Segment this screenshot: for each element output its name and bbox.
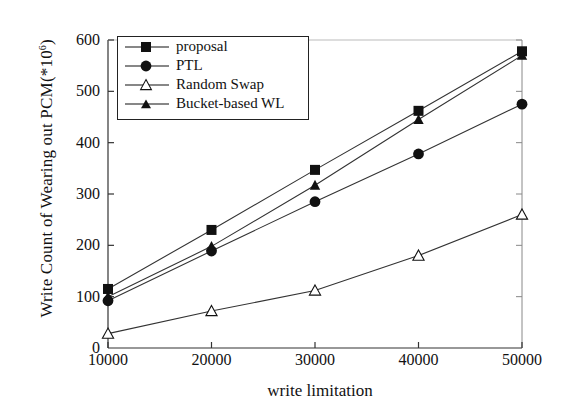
- data-point-2-4: [516, 209, 527, 219]
- data-point-2-3: [413, 250, 424, 260]
- data-point-1-3: [413, 149, 424, 160]
- legend-marker-filled-square: [124, 40, 170, 54]
- legend-label-ptl: PTL: [176, 58, 203, 73]
- legend-item-ptl: PTL: [118, 56, 308, 75]
- data-point-3-1: [206, 241, 216, 251]
- data-point-0-2: [310, 165, 320, 175]
- legend-marker-open-triangle: [124, 78, 170, 92]
- legend-marker-filled-circle: [124, 59, 170, 73]
- data-point-3-2: [310, 180, 320, 190]
- legend-label-bucket-based-wl: Bucket-based WL: [176, 96, 284, 111]
- legend-item-proposal: proposal: [118, 37, 308, 56]
- legend: proposal PTL Random Swap Bucket-based WL: [117, 36, 309, 120]
- legend-item-random-swap: Random Swap: [118, 75, 308, 94]
- chart-container: Write Count of Wearing out PCM(*106) wri…: [0, 0, 570, 412]
- legend-label-proposal: proposal: [176, 39, 228, 54]
- legend-item-bucket-based-wl: Bucket-based WL: [118, 94, 308, 113]
- legend-label-random-swap: Random Swap: [176, 77, 264, 92]
- data-point-1-2: [310, 196, 321, 207]
- data-point-0-1: [207, 225, 217, 235]
- series-ptl: [103, 99, 528, 306]
- data-point-1-4: [517, 99, 528, 110]
- series-random-swap: [102, 209, 527, 338]
- series-line: [108, 215, 522, 334]
- data-point-2-2: [309, 285, 320, 295]
- legend-marker-filled-triangle: [124, 97, 170, 111]
